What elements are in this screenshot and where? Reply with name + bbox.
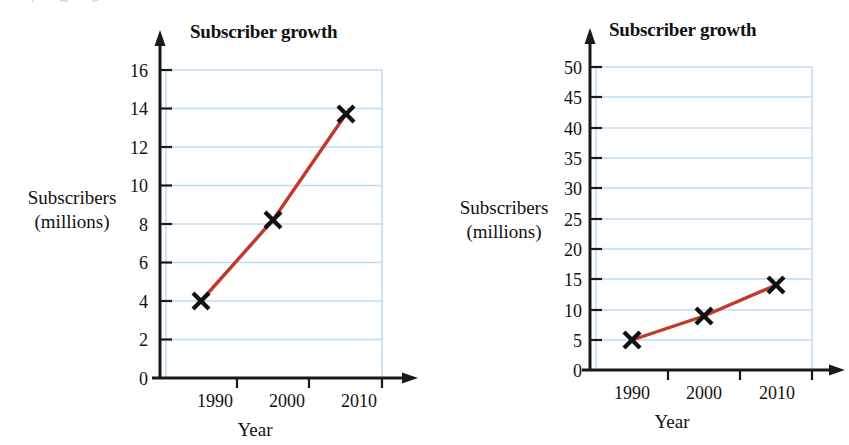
data-point-markers [624,277,784,348]
x-axis [152,373,418,384]
y-axis [585,28,596,370]
y-axis [155,30,166,378]
data-point-marker-2000 [265,212,281,228]
chart-right: Subscriber growth Subscribers (millions)… [424,0,849,445]
plot-area-left [0,0,425,445]
gridlines-vertical [596,67,812,369]
x-axis [582,365,845,376]
chart-left: Subscriber growth Subscribers (millions)… [0,0,425,445]
figure-page: j g p Subscriber growth Subscribers (mil… [0,0,849,445]
gridlines-horizontal [596,67,812,340]
plot-area-right [424,0,849,445]
data-line-series [632,285,776,340]
data-line-series [201,114,346,301]
